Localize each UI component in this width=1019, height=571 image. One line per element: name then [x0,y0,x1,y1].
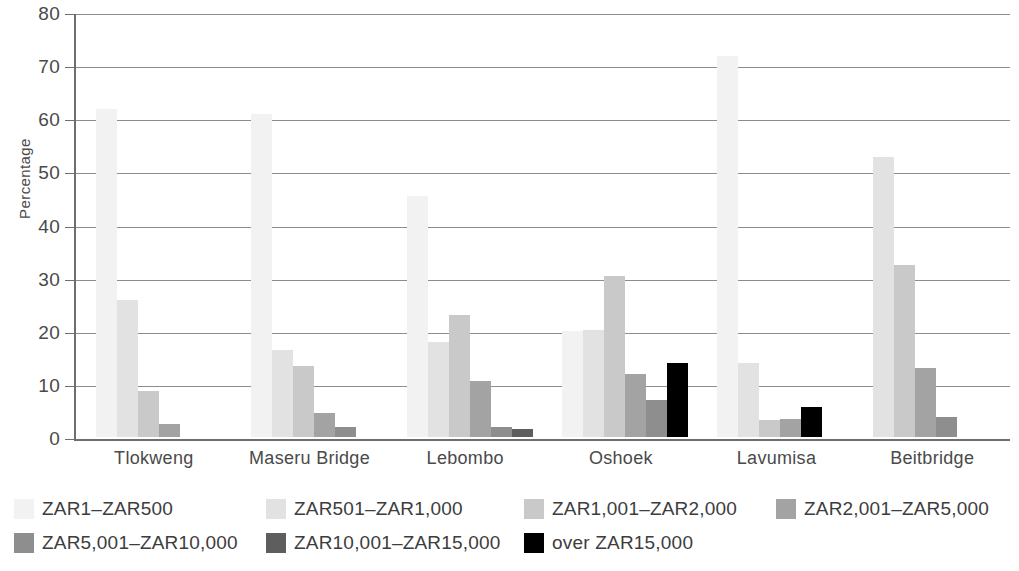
y-axis-tick-label: 10 [38,375,60,397]
plot-area: 01020304050607080 [74,14,1010,441]
legend-swatch-icon [266,499,286,519]
y-axis-tick [65,227,76,228]
legend-label: ZAR501–ZAR1,000 [294,498,463,520]
bar [251,114,272,437]
y-axis-tick [65,14,76,15]
legend-row: ZAR1–ZAR500ZAR501–ZAR1,000ZAR1,001–ZAR2,… [14,492,1014,526]
bar [272,350,293,437]
bar-group-bars [251,14,356,437]
y-axis-tick-label: 60 [38,109,60,131]
legend-label: ZAR1,001–ZAR2,000 [552,498,737,520]
bar-group [544,14,699,437]
y-axis-tick [65,173,76,174]
x-axis-category-label: Lebombo [387,448,543,469]
bar [717,56,738,437]
plot-wrapper: 01020304050607080 [74,14,1010,441]
legend-item[interactable]: ZAR1,001–ZAR2,000 [524,498,737,520]
legend-swatch-icon [776,499,796,519]
chart-legend: ZAR1–ZAR500ZAR501–ZAR1,000ZAR1,001–ZAR2,… [14,492,1014,560]
bar-group [233,14,388,437]
legend-swatch-icon [524,499,544,519]
y-axis-tick [65,120,76,121]
bar [293,366,314,437]
bar [625,374,646,437]
bar-group [855,14,1010,437]
bar [562,331,583,437]
bar [894,265,915,437]
bar [96,109,117,437]
bar [159,424,180,437]
legend-swatch-icon [14,499,34,519]
bar [801,407,822,437]
bar-group [389,14,544,437]
legend-item[interactable]: over ZAR15,000 [524,532,693,554]
bar [646,400,667,437]
bar [491,427,512,437]
legend-item[interactable]: ZAR1–ZAR500 [14,498,173,520]
y-axis-tick-label: 40 [38,216,60,238]
x-axis-category-label: Lavumisa [699,448,855,469]
bar [470,381,491,437]
bar [428,342,449,437]
legend-item[interactable]: ZAR2,001–ZAR5,000 [776,498,989,520]
y-axis-tick-label: 30 [38,269,60,291]
legend-item[interactable]: ZAR501–ZAR1,000 [266,498,463,520]
bar-group-bars [96,14,180,437]
bar-group-bars [717,14,822,437]
y-axis-tick-label: 80 [38,3,60,25]
bar-group [699,14,854,437]
bar-group-bars [873,14,957,437]
bar-chart: Percentage 01020304050607080 TlokwengMas… [0,0,1019,571]
bar [604,276,625,437]
bar [738,363,759,437]
bar [936,417,957,437]
legend-item[interactable]: ZAR5,001–ZAR10,000 [14,532,238,554]
legend-swatch-icon [266,533,286,553]
bar-groups [78,14,1010,437]
bar [780,419,801,438]
y-axis-tick [65,67,76,68]
bar-group-bars [562,14,688,437]
y-axis-tick-label: 0 [49,428,60,450]
legend-label: over ZAR15,000 [552,532,693,554]
bar [873,157,894,437]
y-axis-title: Percentage [16,114,33,244]
legend-item[interactable]: ZAR10,001–ZAR15,000 [266,532,501,554]
bar [583,330,604,437]
bar [407,196,428,437]
bar [138,391,159,437]
y-axis-tick-label: 50 [38,162,60,184]
legend-label: ZAR2,001–ZAR5,000 [804,498,989,520]
y-axis-tick [65,280,76,281]
bar-group-bars [407,14,533,437]
bar [117,300,138,437]
bar [667,363,688,437]
y-axis-tick [65,439,76,440]
y-axis-tick [65,333,76,334]
bar [512,429,533,437]
legend-swatch-icon [14,533,34,553]
bar [335,427,356,437]
bar [915,368,936,437]
y-axis-tick-label: 70 [38,56,60,78]
x-axis-category-label: Oshoek [543,448,699,469]
x-axis-category-label: Tlokweng [76,448,232,469]
x-axis-category-label: Maseru Bridge [232,448,388,469]
y-axis-tick [65,386,76,387]
legend-row: ZAR5,001–ZAR10,000ZAR10,001–ZAR15,000ove… [14,526,1014,560]
bar [759,420,780,437]
bar-group [78,14,233,437]
x-axis-category-label: Beitbridge [854,448,1010,469]
y-axis-tick-label: 20 [38,322,60,344]
bar [314,413,335,437]
bar [449,315,470,437]
x-axis-category-labels: TlokwengMaseru BridgeLebomboOshoekLavumi… [76,448,1010,469]
legend-label: ZAR10,001–ZAR15,000 [294,532,501,554]
legend-swatch-icon [524,533,544,553]
legend-label: ZAR5,001–ZAR10,000 [42,532,238,554]
legend-label: ZAR1–ZAR500 [42,498,173,520]
